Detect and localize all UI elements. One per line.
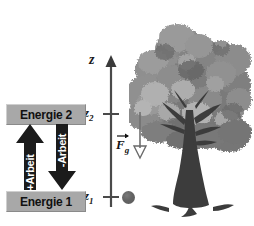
ball — [122, 191, 135, 204]
z1-subscript: 1 — [89, 196, 94, 206]
energy-level-2-box[interactable]: Energie 2 — [6, 104, 86, 125]
z-axis-label: z — [89, 52, 94, 68]
energy-level-1-label: Energie 1 — [20, 195, 72, 209]
physics-diagram: z z2 z1 Fg Energie 2 +Arbeit -Arbeit Ene… — [0, 0, 254, 226]
positive-work-arrow[interactable]: +Arbeit — [15, 123, 45, 191]
gravity-force-arrow — [126, 112, 154, 160]
z2-subscript: 2 — [89, 113, 94, 123]
energy-level-1-box[interactable]: Energie 1 — [6, 191, 86, 212]
vector-arrow-icon — [117, 132, 129, 138]
negative-work-label: -Arbeit — [57, 128, 68, 174]
force-subscript: g — [125, 145, 130, 155]
force-symbol: F — [116, 137, 125, 152]
positive-work-label: +Arbeit — [25, 150, 36, 196]
gravity-force-label: Fg — [116, 137, 129, 155]
energy-level-2-label: Energie 2 — [20, 108, 72, 122]
negative-work-arrow[interactable]: -Arbeit — [47, 123, 77, 191]
